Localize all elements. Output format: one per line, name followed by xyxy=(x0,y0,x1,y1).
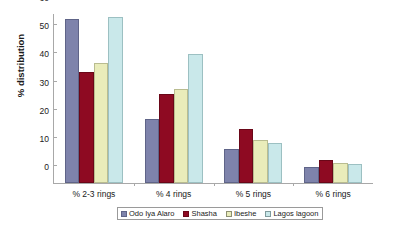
bar xyxy=(319,160,334,183)
legend-item[interactable]: Shasha xyxy=(183,210,216,218)
legend-color-swatch xyxy=(121,211,127,217)
legend-color-swatch xyxy=(226,211,232,217)
y-axis-tick-label: 40 xyxy=(40,49,54,59)
legend-item[interactable]: Odo Iya Alaro xyxy=(121,210,174,218)
bar xyxy=(159,94,174,183)
y-axis-tick-label: 10 xyxy=(40,134,54,144)
legend-color-swatch xyxy=(265,211,271,217)
x-axis-category-label: % 6 rings xyxy=(293,189,373,199)
bar xyxy=(348,164,363,183)
bar xyxy=(239,129,254,183)
bar-chart-figure: % distribution 0102030405060 % 2-3 rings… xyxy=(0,0,405,232)
x-axis-tick-mark xyxy=(293,183,294,186)
y-axis-tick-label: 30 xyxy=(40,78,54,88)
legend-item[interactable]: Ibeshe xyxy=(226,210,257,218)
y-axis-tick-label: 50 xyxy=(40,21,54,31)
bar-group xyxy=(134,14,214,183)
bar xyxy=(174,89,189,183)
bar-group xyxy=(293,14,373,183)
y-axis-tick-label: 20 xyxy=(40,106,54,116)
bar xyxy=(79,72,94,183)
x-axis-category-label: % 4 rings xyxy=(134,189,214,199)
y-axis-tick: 60 xyxy=(40,0,54,5)
bar xyxy=(65,19,80,183)
legend-label: Odo Iya Alaro xyxy=(129,210,174,218)
y-axis-tick: 20 xyxy=(40,100,54,118)
x-axis-category-labels: % 2-3 rings% 4 rings% 5 rings% 6 rings xyxy=(54,189,373,203)
y-axis-tick-label: 0 xyxy=(44,162,54,172)
bar xyxy=(145,119,160,184)
x-axis-category-label: % 2-3 rings xyxy=(54,189,134,199)
bar-group xyxy=(54,14,134,183)
bar xyxy=(304,167,319,183)
legend-label: Lagos lagoon xyxy=(273,210,318,218)
legend-color-swatch xyxy=(183,211,189,217)
bar xyxy=(94,63,109,183)
bars-layer xyxy=(54,14,373,183)
plot-area: 0102030405060 xyxy=(53,14,373,184)
y-axis-tick: 40 xyxy=(40,43,54,61)
x-axis-tick-mark xyxy=(134,183,135,186)
chart-legend: Odo Iya AlaroShashaIbesheLagos lagoon xyxy=(117,207,323,220)
y-axis-tick: 30 xyxy=(40,72,54,90)
y-axis-tick-label: 60 xyxy=(40,0,54,3)
legend-label: Ibeshe xyxy=(234,210,257,218)
bar xyxy=(333,163,348,183)
x-axis-category-label: % 5 rings xyxy=(214,189,294,199)
bar xyxy=(268,143,283,183)
bar xyxy=(108,17,123,183)
bar xyxy=(188,54,203,183)
legend-item[interactable]: Lagos lagoon xyxy=(265,210,318,218)
y-axis-tick: 0 xyxy=(44,156,54,174)
bar xyxy=(224,149,239,183)
x-axis-tick-mark xyxy=(214,183,215,186)
y-axis-tick: 10 xyxy=(40,128,54,146)
bar-group xyxy=(214,14,294,183)
bar xyxy=(253,140,268,183)
y-axis-title: % distribution xyxy=(15,6,26,126)
legend-label: Shasha xyxy=(191,210,216,218)
y-axis-tick: 50 xyxy=(40,15,54,33)
